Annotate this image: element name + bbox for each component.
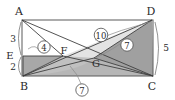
- vertex-label-b: B: [20, 80, 28, 93]
- length-label-dc: 5: [163, 43, 169, 53]
- area-label-ebf: 4: [38, 41, 50, 53]
- point-label-f: F: [61, 45, 68, 56]
- vertex-label-c: C: [148, 80, 156, 93]
- length-label-eb: 2: [10, 62, 16, 72]
- vertex-label-a: A: [14, 5, 24, 18]
- point-label-e: E: [6, 50, 13, 61]
- point-label-g: G: [92, 58, 100, 69]
- area-label-gdc: 7: [121, 39, 133, 51]
- area-label-afgd: 10: [94, 28, 108, 42]
- area-label-ebf-text: 4: [41, 43, 46, 53]
- area-label-afgd-text: 10: [96, 31, 107, 41]
- geometry-diagram-canvas: A B C D E F G 3 2 5 4 10 7 7: [0, 0, 175, 100]
- area-label-bgc-text: 7: [79, 86, 84, 96]
- vertex-label-d: D: [147, 5, 156, 18]
- area-label-bgc: 7: [76, 84, 88, 96]
- area-label-gdc-text: 7: [124, 41, 129, 51]
- length-label-ae: 3: [10, 34, 16, 44]
